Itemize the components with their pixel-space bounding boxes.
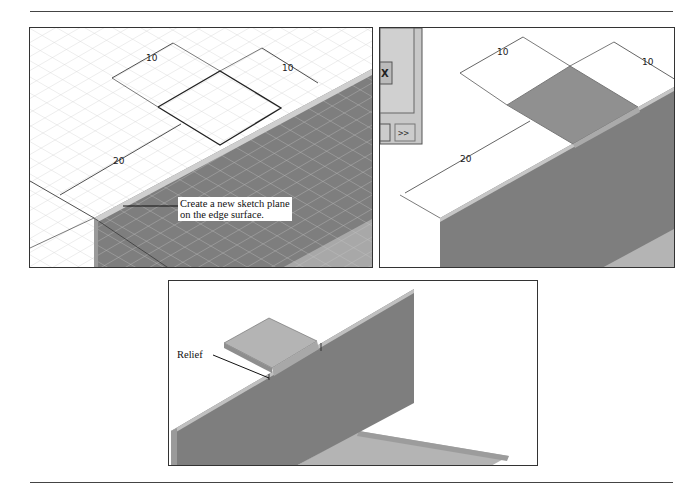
dim-top-left: 10 <box>146 53 158 63</box>
dim-side: 20 <box>113 156 125 166</box>
svg-text:X: X <box>381 68 389 79</box>
relief-result-drawing <box>169 281 538 466</box>
dim-top-right: 10 <box>282 63 294 73</box>
dim-side: 20 <box>460 154 472 164</box>
figure-sketch-grid: 10 10 20 Create a new sketch plane on th… <box>29 27 373 268</box>
top-rule <box>30 11 673 12</box>
dim-top-right: 10 <box>642 57 654 67</box>
svg-text:>>: >> <box>398 128 409 138</box>
flange-preview-drawing: X >> 10 10 20 <box>380 28 675 268</box>
sketch-grid-drawing: 10 10 20 <box>30 28 373 268</box>
sketch-plane-callout: Create a new sketch plane on the edge su… <box>178 197 292 221</box>
relief-callout: Relief <box>175 348 205 361</box>
dim-top-left: 10 <box>497 47 509 57</box>
bottom-rule <box>30 482 673 483</box>
figure-relief-result: Relief <box>168 280 538 466</box>
figure-flange-preview: X >> 10 10 20 <box>379 27 675 268</box>
